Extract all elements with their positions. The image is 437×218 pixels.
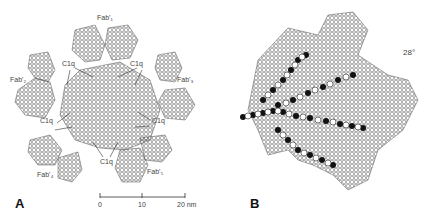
label-c1q-mid-left: C1q — [40, 117, 53, 124]
label-c1q-mid-right: C1q — [152, 117, 165, 124]
label-c1q-top-right: C1q — [130, 60, 143, 67]
scale-bar — [100, 193, 185, 198]
label-fab-top: Fab'₁ — [97, 14, 113, 21]
panel-letter-a: A — [15, 196, 24, 211]
label-fab-bottom-left: Fab'₄ — [37, 171, 53, 178]
label-fab-bottom-right: Fab'₅ — [147, 168, 163, 175]
scale-tick-0: 0 — [98, 201, 102, 208]
angle-label: 28° — [403, 48, 415, 57]
label-c1q-top-left: C1q — [62, 60, 75, 67]
panel-b: 28° B — [218, 0, 437, 218]
molecular-model-b — [218, 0, 437, 218]
panel-letter-b: B — [250, 196, 259, 211]
label-fab-left: Fab'₂ — [10, 76, 26, 83]
panel-a: Fab'₁ Fab'₂ Fab'₃ Fab'₄ Fab'₅ C1q C1q C1… — [0, 0, 218, 218]
scale-tick-20: 20 nm — [177, 201, 196, 208]
label-fab-right: Fab'₃ — [177, 76, 193, 83]
label-c1q-bottom: C1q — [100, 158, 113, 165]
scale-tick-10: 10 — [138, 201, 146, 208]
molecular-model-a — [0, 0, 218, 218]
